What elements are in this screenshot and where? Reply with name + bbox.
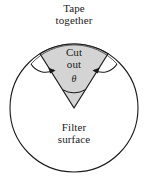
filter-surface-label: Filter surface — [0, 122, 148, 146]
cut-out-label: Cut out — [0, 47, 148, 71]
filter-paper-cone-diagram: Tape together Cut out θ Filter surface — [0, 0, 148, 186]
tape-together-label: Tape together — [0, 3, 148, 27]
diagram-canvas — [0, 0, 148, 186]
theta-symbol-label: θ — [0, 74, 148, 85]
